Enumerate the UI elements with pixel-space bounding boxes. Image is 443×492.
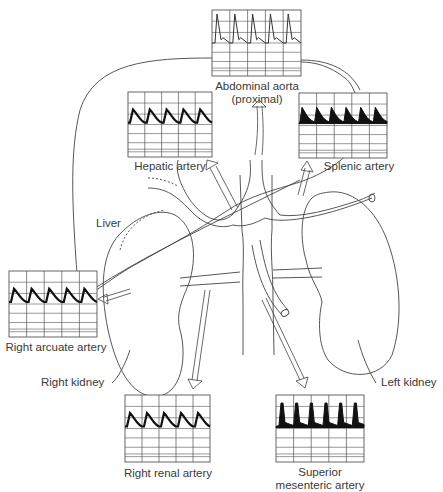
sma-vessel [260, 240, 288, 310]
arrow-aorta-icon [252, 100, 266, 155]
renal-artery-left [273, 268, 322, 270]
renal-artery-right [180, 272, 240, 278]
abdominal-aorta-waveform [211, 9, 302, 77]
right-renal-artery-waveform [124, 394, 211, 463]
right-arcuate-artery-label: Right arcuate artery [4, 341, 108, 354]
arrow-sma-icon [262, 298, 308, 388]
sma-vessel [252, 245, 282, 315]
left-kidney-label: Left kidney [381, 376, 437, 389]
hepatic-artery-label: Hepatic artery [124, 160, 216, 173]
renal-artery-left [273, 277, 322, 278]
right-kidney-label: Right kidney [41, 376, 104, 389]
hepatic-vessel [148, 188, 233, 227]
sma-label-line2: mesenteric artery [262, 479, 378, 492]
arrow-splenic-icon [298, 161, 313, 196]
abdominal-aorta-label-line2: (proximal) [206, 93, 308, 106]
superior-mesenteric-artery-waveform [275, 394, 365, 463]
splenic-artery-label: Splenic artery [314, 160, 404, 173]
liver-label: Liver [96, 217, 121, 230]
abdominal-aorta-label: Abdominal aorta (proximal) [206, 80, 308, 106]
hepatic-artery-waveform [127, 91, 213, 158]
left-kidney-outline [302, 192, 399, 375]
superior-mesenteric-artery-label: Superior mesenteric artery [262, 466, 378, 492]
arrow-renal-icon [188, 290, 210, 389]
abdominal-aorta-label-line1: Abdominal aorta [206, 80, 308, 93]
splenic-artery-waveform [298, 92, 388, 159]
left-kidney-leader [358, 340, 376, 383]
aorta-wall [271, 175, 274, 355]
right-renal-artery-label: Right renal artery [120, 467, 216, 480]
right-arcuate-artery-waveform [8, 270, 98, 338]
sma-label-line1: Superior [262, 466, 378, 479]
